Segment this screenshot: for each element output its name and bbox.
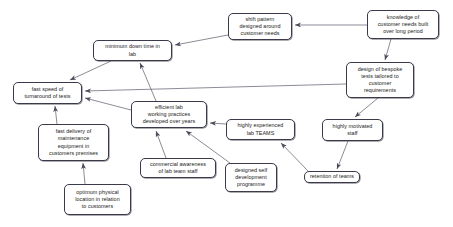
diagram-canvas: shift pattern designed around customer n…: [0, 0, 453, 227]
edge-optimum-to-delivery: [83, 163, 85, 184]
node-knowledge-customer-needs[interactable]: knowledge of customer needs built over l…: [367, 10, 439, 39]
edge-delivery-to-fast-speed: [55, 106, 57, 124]
node-fast-speed-turnaround[interactable]: fast speed of turnaround of tests: [13, 82, 82, 104]
edge-knowledge-to-design: [385, 39, 391, 60]
edge-experienced-to-efficient: [210, 123, 226, 124]
node-minimum-down-time[interactable]: minimum down time in lab: [93, 40, 172, 61]
node-label: commercial awareness of lab team staff: [150, 161, 206, 175]
edge-minimum-to-fast-speed: [70, 61, 111, 80]
node-label: optimum physical location in relation to…: [75, 189, 119, 210]
node-shift-pattern[interactable]: shift pattern designed around customer n…: [228, 13, 292, 40]
node-commercial-awareness[interactable]: commercial awareness of lab team staff: [140, 158, 216, 178]
edge-design-to-fast-speed: [85, 84, 346, 91]
node-highly-motivated-staff[interactable]: highly motivated staff: [322, 119, 383, 141]
node-label: highly experienced lab TEAMS: [238, 122, 284, 136]
node-label: fast speed of turnaround of tests: [25, 86, 71, 100]
edge-motivated-to-retention: [337, 141, 348, 169]
node-label: knowledge of customer needs built over l…: [378, 14, 429, 35]
node-label: shift pattern designed around customer n…: [240, 16, 281, 37]
node-label: highly motivated staff: [333, 123, 373, 137]
edge-commercial-to-efficient: [156, 131, 166, 158]
node-highly-experienced-teams[interactable]: highly experienced lab TEAMS: [226, 119, 295, 140]
node-label: fast delivery of maintenance equipment i…: [49, 128, 98, 156]
edge-efficient-to-minimum: [140, 63, 156, 101]
node-optimum-physical-location[interactable]: optimum physical location in relation to…: [64, 184, 131, 215]
node-fast-delivery-maintenance[interactable]: fast delivery of maintenance equipment i…: [38, 124, 109, 161]
edge-efficient-to-fast-speed: [85, 98, 131, 110]
node-label: designed self development programme: [235, 167, 267, 188]
edge-design-to-motivated: [355, 98, 378, 117]
node-label: minimum down time in lab: [105, 43, 160, 57]
node-retention-of-teams[interactable]: retention of teams: [304, 171, 360, 183]
node-design-bespoke-tests[interactable]: design of bespoke tests tailored to cust…: [346, 62, 414, 98]
node-label: retention of teams: [310, 173, 354, 180]
node-designed-self-development[interactable]: designed self development programme: [225, 163, 277, 192]
edge-shift-to-minimum: [175, 35, 228, 45]
node-efficient-lab-practices[interactable]: efficient lab working practices develope…: [131, 101, 207, 128]
node-label: design of bespoke tests tailored to cust…: [358, 66, 403, 94]
node-label: efficient lab working practices develope…: [143, 104, 196, 125]
edge-retention-to-experienced: [281, 143, 308, 171]
